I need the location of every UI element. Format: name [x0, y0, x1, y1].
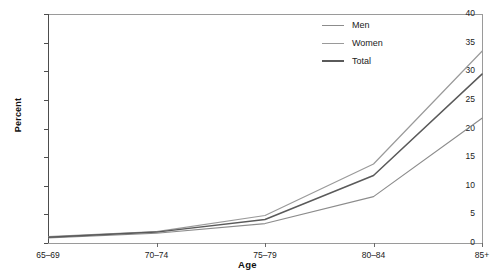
y-axis-title: Percent: [13, 75, 23, 155]
series-line-total: [48, 74, 482, 237]
x-tick: [157, 243, 158, 247]
legend-swatch-total-icon: [322, 60, 344, 62]
x-axis-title: Age: [0, 259, 495, 270]
x-tick: [265, 243, 266, 247]
legend-item-men[interactable]: Men: [322, 16, 432, 34]
legend-swatch-women-icon: [322, 43, 344, 44]
legend-item-total[interactable]: Total: [322, 52, 432, 70]
chart-figure: Percent 0510152025303540 65–6970–7475–79…: [0, 0, 495, 276]
x-tick: [482, 243, 483, 247]
legend-label: Total: [352, 56, 371, 66]
y-tick: [44, 243, 48, 244]
legend-swatch-men-icon: [322, 25, 344, 26]
x-tick: [374, 243, 375, 247]
chart-legend: MenWomenTotal: [322, 16, 432, 70]
legend-item-women[interactable]: Women: [322, 34, 432, 52]
legend-label: Men: [352, 20, 370, 30]
legend-label: Women: [352, 38, 383, 48]
series-line-women: [48, 51, 482, 236]
